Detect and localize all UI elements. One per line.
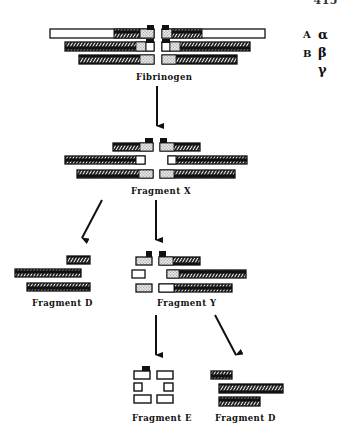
fibrinogen-right-alpha-chain [162, 25, 265, 38]
label-fragment-e: Fragment E [132, 413, 192, 423]
legend-chain-b-label: B [303, 48, 311, 59]
label-fragment-y: Fragment Y [157, 298, 216, 308]
legend-beta-symbol: β [318, 45, 327, 60]
legend-gamma-symbol: γ [318, 62, 327, 77]
fragment-y-molecule [132, 251, 246, 292]
label-fibrinogen: Fibrinogen [136, 72, 192, 82]
label-fragment-d-left: Fragment D [32, 298, 93, 308]
legend-alpha-symbol: α [318, 27, 328, 42]
fragment-e-molecule [134, 366, 173, 403]
fibrinogen-left-gamma-chain [79, 55, 154, 64]
arrow-y-to-d [215, 315, 236, 355]
legend-chain-a-label: A [303, 29, 311, 40]
fibrinogen-left-alpha-chain [50, 25, 154, 38]
label-fragment-d-right: Fragment D [215, 413, 276, 423]
fibrinopeptide-a-cap [147, 25, 154, 30]
fragment-d-right-molecule [211, 371, 283, 406]
fibrinogen-left-beta-chain [65, 39, 154, 51]
fragment-x-molecule [65, 138, 247, 178]
fibrinogen-molecule [50, 25, 265, 64]
arrow-x-to-d [82, 200, 102, 238]
fibrinopeptide-b-cap [146, 39, 154, 43]
fragment-d-left-molecule [15, 256, 90, 291]
fibrinogen-degradation-diagram [0, 0, 340, 430]
label-fragment-x: Fragment X [131, 186, 191, 196]
fibrinogen-right-gamma-chain [162, 55, 237, 64]
fibrinogen-right-beta-chain [162, 39, 250, 51]
